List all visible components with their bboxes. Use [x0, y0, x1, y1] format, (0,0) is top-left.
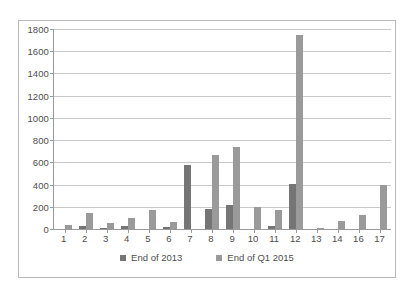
bar — [170, 222, 177, 229]
bar-group — [370, 29, 391, 229]
y-axis-tick-label: 1000 — [27, 112, 49, 123]
y-axis-tick-label: 1600 — [27, 46, 49, 57]
y-axis-labels: 180016001400120010008006004002000 — [19, 29, 52, 229]
plot-wrapper: 180016001400120010008006004002000 123456… — [19, 21, 395, 277]
bar — [233, 147, 240, 229]
x-axis-tick-label: 11 — [264, 233, 285, 244]
chart-legend: End of 2013End of Q1 2015 — [19, 252, 395, 263]
bar — [149, 210, 156, 229]
y-axis-tick-label: 400 — [33, 179, 49, 190]
x-axis-tick-label: 14 — [327, 233, 348, 244]
legend-swatch-icon — [120, 255, 126, 261]
legend-item[interactable]: End of Q1 2015 — [216, 252, 294, 263]
x-axis-tick-label: 9 — [222, 233, 243, 244]
bar — [65, 225, 72, 229]
y-axis-tick-label: 1800 — [27, 24, 49, 35]
bar-group — [223, 29, 244, 229]
legend-swatch-icon — [216, 255, 222, 261]
bar — [254, 207, 261, 229]
bar — [380, 185, 387, 229]
x-axis-tick-label: 6 — [158, 233, 179, 244]
bar — [212, 155, 219, 229]
bar — [107, 223, 114, 229]
chart-container: 180016001400120010008006004002000 123456… — [18, 20, 396, 278]
bar-group — [117, 29, 138, 229]
y-axis-tickmark — [50, 229, 54, 230]
y-axis-tick-label: 1400 — [27, 68, 49, 79]
bar — [163, 227, 170, 229]
bar — [184, 165, 191, 229]
bar-group — [201, 29, 222, 229]
plot-area — [53, 29, 391, 230]
x-axis-tick-label: 4 — [116, 233, 137, 244]
x-axis-tick-label: 5 — [137, 233, 158, 244]
bar-group — [286, 29, 307, 229]
bar — [128, 218, 135, 229]
x-axis-labels: 12345678910111213141617 — [53, 233, 390, 244]
bar-group — [180, 29, 201, 229]
x-axis-tick-label: 13 — [306, 233, 327, 244]
bar — [289, 184, 296, 229]
bar — [359, 215, 366, 229]
bar-group — [328, 29, 349, 229]
x-axis-tick-label: 16 — [348, 233, 369, 244]
x-axis-tick-label: 7 — [179, 233, 200, 244]
bar-group — [54, 29, 75, 229]
bar-group — [244, 29, 265, 229]
bar-group — [307, 29, 328, 229]
bar — [296, 35, 303, 229]
x-axis-tick-label: 8 — [200, 233, 221, 244]
y-axis-tick-label: 800 — [33, 135, 49, 146]
legend-item[interactable]: End of 2013 — [120, 252, 182, 263]
y-axis-tick-label: 600 — [33, 157, 49, 168]
bar — [338, 221, 345, 229]
legend-label: End of Q1 2015 — [227, 252, 294, 263]
x-axis-tick-label: 10 — [243, 233, 264, 244]
x-axis-tick-label: 1 — [53, 233, 74, 244]
bar-group — [138, 29, 159, 229]
bar-group — [349, 29, 370, 229]
bar-group — [75, 29, 96, 229]
bar — [275, 210, 282, 229]
x-axis-tick-label: 3 — [95, 233, 116, 244]
bar — [79, 226, 86, 229]
y-axis-tick-label: 200 — [33, 201, 49, 212]
bar — [205, 209, 212, 229]
bar — [268, 226, 275, 229]
bar — [86, 213, 93, 229]
bar-group — [96, 29, 117, 229]
bar — [121, 226, 128, 229]
y-axis-tick-label: 0 — [44, 224, 49, 235]
y-axis-tick-label: 1200 — [27, 90, 49, 101]
bar-group — [159, 29, 180, 229]
x-axis-tick-label: 17 — [369, 233, 390, 244]
bar — [226, 205, 233, 229]
legend-label: End of 2013 — [131, 252, 182, 263]
bar — [100, 228, 107, 229]
bar — [317, 228, 324, 229]
bar-series-group — [54, 29, 391, 229]
x-axis-tick-label: 2 — [74, 233, 95, 244]
x-axis-tick-label: 12 — [285, 233, 306, 244]
bar-group — [265, 29, 286, 229]
